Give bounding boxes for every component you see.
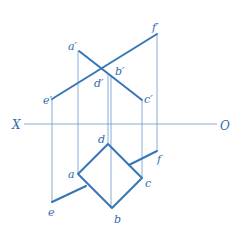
label-b: b (114, 213, 121, 226)
label-e: e (48, 206, 55, 219)
label-a: a (68, 168, 75, 181)
axis-label-x: X (11, 118, 21, 132)
label-e-prime: e′ (43, 94, 53, 107)
label-f-prime: f′ (151, 21, 159, 34)
square-abcd (78, 144, 142, 208)
label-a-prime: a′ (68, 40, 78, 53)
label-c: c (145, 177, 151, 190)
label-d-prime: d′ (94, 77, 104, 90)
label-c-prime: c′ (144, 93, 153, 106)
line-f-segment (129, 151, 157, 165)
projection-diagram: X O a′ b′ c′ d′ e′ f′ a b c d e f (0, 0, 244, 227)
axis-label-o: O (220, 119, 230, 133)
projection-lines (24, 34, 217, 208)
label-b-prime: b′ (115, 65, 125, 78)
diagram-svg: X O a′ b′ c′ d′ e′ f′ a b c d e f (0, 0, 244, 227)
label-f: f (156, 153, 163, 166)
line-e-segment (52, 186, 86, 202)
label-d: d (98, 133, 105, 146)
